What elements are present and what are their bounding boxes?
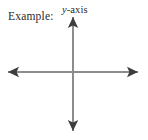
- axes-graphic: [0, 0, 148, 140]
- coordinate-plane-figure: Example: y-axis: [0, 0, 148, 140]
